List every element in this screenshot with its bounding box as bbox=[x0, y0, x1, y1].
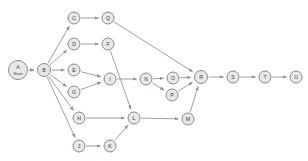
node-d[interactable]: D bbox=[68, 38, 80, 50]
graph-diagram: AStartBCQDFEGINOPRSTUHLMJK bbox=[0, 0, 308, 161]
node-q[interactable]: Q bbox=[102, 12, 114, 24]
node-label-h: H bbox=[77, 115, 81, 121]
node-label-i: I bbox=[109, 76, 110, 82]
node-label-d: D bbox=[72, 41, 76, 47]
edge-b-to-d bbox=[50, 50, 67, 65]
node-p[interactable]: P bbox=[166, 89, 178, 101]
node-label-q: Q bbox=[106, 15, 110, 21]
node-b[interactable]: B bbox=[38, 64, 51, 77]
node-g[interactable]: G bbox=[68, 86, 80, 98]
node-label-p: P bbox=[170, 92, 174, 98]
node-label-c: C bbox=[72, 15, 76, 21]
edge-n-to-p bbox=[152, 83, 164, 90]
node-k[interactable]: K bbox=[104, 140, 116, 152]
node-e[interactable]: E bbox=[68, 64, 80, 76]
node-m[interactable]: M bbox=[182, 113, 194, 125]
node-h[interactable]: H bbox=[73, 112, 85, 124]
node-label-r: R bbox=[199, 74, 203, 80]
edge-p-to-r bbox=[178, 82, 192, 91]
edge-e-to-i bbox=[81, 72, 101, 77]
node-label-j: J bbox=[78, 143, 81, 149]
edge-g-to-i bbox=[81, 82, 101, 89]
node-label-g: G bbox=[72, 89, 76, 95]
node-l[interactable]: L bbox=[128, 112, 140, 124]
node-label-n: N bbox=[144, 76, 148, 82]
node-f[interactable]: F bbox=[102, 38, 114, 50]
edge-l-to-m bbox=[141, 118, 178, 119]
node-j[interactable]: J bbox=[73, 140, 85, 152]
node-label-b: B bbox=[42, 67, 46, 73]
node-o[interactable]: O bbox=[167, 72, 179, 84]
node-label-m: M bbox=[186, 116, 190, 122]
node-label-s: S bbox=[231, 74, 235, 80]
edge-q-to-r bbox=[114, 22, 193, 72]
node-label-l: L bbox=[133, 115, 136, 121]
node-sublabel-a: Start bbox=[13, 71, 23, 76]
node-s[interactable]: S bbox=[227, 71, 239, 83]
edge-b-to-g bbox=[50, 75, 66, 87]
edge-m-to-r bbox=[190, 86, 198, 112]
node-c[interactable]: C bbox=[68, 12, 80, 24]
edge-layer bbox=[29, 18, 287, 146]
node-t[interactable]: T bbox=[259, 71, 271, 83]
edge-k-to-l bbox=[115, 125, 128, 140]
node-i[interactable]: I bbox=[104, 73, 116, 85]
node-a[interactable]: AStart bbox=[9, 61, 28, 80]
node-label-u: U bbox=[294, 74, 298, 80]
node-label-k: K bbox=[108, 143, 112, 149]
node-label-f: F bbox=[106, 41, 109, 47]
node-r[interactable]: R bbox=[195, 71, 208, 84]
node-label-e: E bbox=[72, 67, 76, 73]
node-u[interactable]: U bbox=[290, 71, 302, 83]
node-n[interactable]: N bbox=[140, 73, 152, 85]
node-label-a: A bbox=[16, 64, 20, 70]
node-label-o: O bbox=[171, 75, 175, 81]
